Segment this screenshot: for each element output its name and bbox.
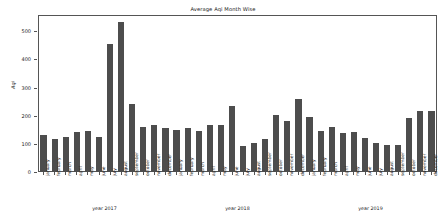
y-tick-label: 100 [21, 141, 31, 147]
x-tick-mark [287, 172, 288, 175]
y-tick-mark [34, 116, 37, 117]
x-tick-mark [320, 172, 321, 175]
x-tick-mark [165, 172, 166, 175]
x-tick-mark [254, 172, 255, 175]
x-tick-mark [376, 172, 377, 175]
y-tick-mark [34, 172, 37, 173]
x-tick-label: january [45, 159, 50, 176]
x-group-label: year 2018 [198, 206, 278, 211]
x-tick-mark [121, 172, 122, 175]
x-tick-mark [276, 172, 277, 175]
y-tick-label: 400 [21, 56, 31, 62]
x-tick-label: october [278, 159, 283, 176]
x-tick-label: march [333, 162, 338, 176]
x-tick-label: may [222, 166, 227, 176]
x-tick-mark [65, 172, 66, 175]
x-tick-mark [43, 172, 44, 175]
x-tick-mark [132, 172, 133, 175]
x-tick-label: march [67, 162, 72, 176]
x-tick-label: april [78, 166, 83, 176]
x-axis: januaryfebruarymarchaprilmayjunejulyaugu… [38, 172, 437, 224]
x-tick-label: july [378, 168, 383, 176]
y-axis-label: Aqi [10, 70, 16, 100]
x-tick-label: august [389, 161, 394, 176]
chart-title: Average Aqi Month Wise [0, 6, 446, 12]
x-tick-label: november [289, 154, 294, 176]
x-tick-mark [176, 172, 177, 175]
y-tick-label: 500 [21, 28, 31, 34]
plot-area [38, 15, 437, 172]
x-tick-mark [431, 172, 432, 175]
x-tick-label: december [167, 154, 172, 176]
x-tick-label: october [145, 159, 150, 176]
x-tick-mark [331, 172, 332, 175]
y-tick-mark [34, 88, 37, 89]
x-tick-label: january [311, 159, 316, 176]
x-tick-label: july [245, 168, 250, 176]
x-tick-label: august [256, 161, 261, 176]
x-tick-mark [143, 172, 144, 175]
x-tick-label: october [411, 159, 416, 176]
x-tick-label: august [123, 161, 128, 176]
x-tick-label: september [267, 152, 272, 176]
y-tick-label: 300 [21, 85, 31, 91]
x-tick-mark [187, 172, 188, 175]
x-tick-mark [298, 172, 299, 175]
x-tick-label: june [367, 167, 372, 177]
x-tick-mark [198, 172, 199, 175]
x-tick-label: december [433, 154, 438, 176]
x-tick-label: march [200, 162, 205, 176]
x-tick-label: june [101, 167, 106, 177]
x-tick-mark [265, 172, 266, 175]
x-tick-mark [54, 172, 55, 175]
x-tick-mark [420, 172, 421, 175]
x-tick-mark [398, 172, 399, 175]
y-tick-mark [34, 59, 37, 60]
x-tick-mark [409, 172, 410, 175]
x-tick-mark [232, 172, 233, 175]
x-group-label: year 2019 [331, 206, 411, 211]
x-tick-label: february [56, 157, 61, 176]
x-group-label: year 2017 [65, 206, 145, 211]
x-tick-mark [243, 172, 244, 175]
x-tick-label: january [178, 159, 183, 176]
x-tick-label: may [89, 166, 94, 176]
x-tick-label: february [189, 157, 194, 176]
chart-figure: Average Aqi Month Wise Aqi 0100200300400… [0, 0, 446, 224]
x-tick-label: may [355, 166, 360, 176]
x-tick-mark [99, 172, 100, 175]
x-tick-label: april [211, 166, 216, 176]
x-tick-label: december [300, 154, 305, 176]
x-tick-label: february [322, 157, 327, 176]
x-tick-label: july [112, 168, 117, 176]
y-tick-label: 0 [28, 169, 31, 175]
x-tick-label: april [344, 166, 349, 176]
x-tick-label: september [400, 152, 405, 176]
x-tick-label: june [234, 167, 239, 177]
x-tick-mark [309, 172, 310, 175]
x-tick-mark [110, 172, 111, 175]
y-tick-mark [34, 144, 37, 145]
x-tick-mark [154, 172, 155, 175]
y-tick-mark [34, 31, 37, 32]
x-tick-mark [365, 172, 366, 175]
x-tick-mark [387, 172, 388, 175]
x-tick-label: november [156, 154, 161, 176]
x-tick-label: september [134, 152, 139, 176]
y-tick-label: 200 [21, 113, 31, 119]
x-tick-label: november [422, 154, 427, 176]
